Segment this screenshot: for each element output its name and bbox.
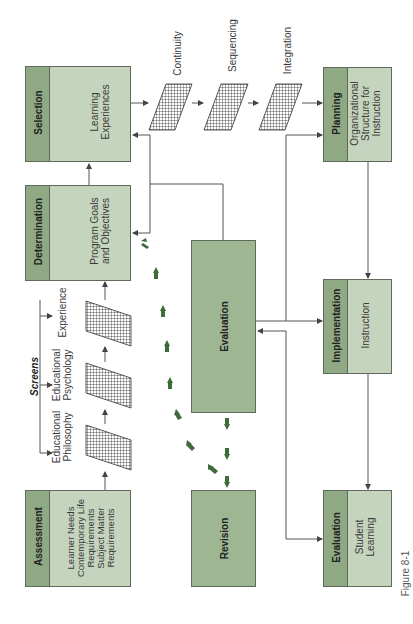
- screen-label-sequencing: Sequencing: [227, 16, 238, 76]
- figure-label: Figure 8-1: [400, 544, 411, 604]
- screen-label-continuity: Continuity: [172, 24, 183, 84]
- implementation-body: Instruction: [360, 278, 371, 374]
- planning-box: Planning OrganizationalStructure forInst…: [323, 67, 392, 162]
- planning-body: OrganizationalStructure forInstruction: [349, 66, 382, 162]
- implementation-header: Implementation: [331, 278, 342, 374]
- screen-label-integration: Integration: [282, 21, 293, 81]
- student-evaluation-header: Evaluation: [331, 490, 342, 586]
- evaluation-label: Evaluation: [219, 279, 230, 375]
- screens-title: Screens: [29, 347, 40, 407]
- determination-body: Program Goalsand Objectives: [89, 183, 111, 279]
- assessment-body: Learner Needs Contemporary Life Requirem…: [66, 490, 116, 586]
- revision-box: Revision: [191, 490, 256, 587]
- selection-box: Selection LearningExperiences: [25, 66, 131, 162]
- revision-label: Revision: [219, 491, 230, 587]
- selection-header: Selection: [33, 65, 44, 161]
- planning-header: Planning: [331, 66, 342, 162]
- determination-box: Determination Program Goalsand Objective…: [25, 185, 131, 281]
- screen-label-experience: Experience: [57, 273, 68, 353]
- determination-header: Determination: [33, 184, 44, 280]
- evaluation-box: Evaluation: [191, 240, 256, 413]
- student-evaluation-body: StudentLearning: [354, 489, 376, 585]
- selection-body: LearningExperiences: [89, 64, 111, 160]
- assessment-box: Assessment Learner Needs Contemporary Li…: [25, 490, 131, 587]
- assessment-header: Assessment: [33, 489, 44, 585]
- student-evaluation-box: Evaluation StudentLearning: [323, 490, 392, 587]
- implementation-box: Implementation Instruction: [323, 279, 392, 374]
